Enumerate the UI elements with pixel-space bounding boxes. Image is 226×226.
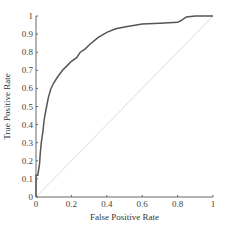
y-tick-label: 0 [29,192,34,202]
y-axis-label: True Positive Rate [2,73,12,140]
y-tick-label: 0.2 [22,156,33,166]
y-tick-label: 0.1 [22,174,33,184]
y-tick-label: 0.4 [22,120,34,130]
x-tick-label: 0.8 [172,199,184,209]
roc-chart: 00.20.40.60.8100.10.20.30.40.50.60.70.80… [0,0,226,226]
y-tick-label: 0.3 [22,138,34,148]
y-tick-label: 0.9 [22,29,34,39]
y-tick-label: 0.7 [22,65,34,75]
x-tick-label: 0.4 [101,199,113,209]
x-tick-label: 0.2 [66,199,77,209]
y-tick-label: 0.6 [22,83,34,93]
diagonal-reference-line [36,16,213,197]
x-tick-label: 0 [34,199,39,209]
y-tick-label: 0.5 [22,102,34,112]
x-axis-label: False Positive Rate [90,212,159,222]
plot-area [36,16,213,197]
x-tick-label: 0.6 [137,199,149,209]
x-tick-label: 1 [211,199,216,209]
y-tick-label: 1 [29,11,34,21]
y-tick-label: 0.8 [22,47,34,57]
axes: 00.20.40.60.8100.10.20.30.40.50.60.70.80… [22,11,216,209]
